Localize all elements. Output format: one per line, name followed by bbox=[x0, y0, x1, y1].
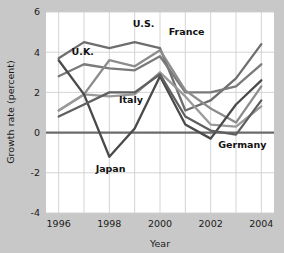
x-axis-title: Year bbox=[149, 238, 170, 249]
y-tick-label-0: 0 bbox=[34, 127, 40, 138]
series-label-germany: Germany bbox=[218, 139, 267, 150]
y-tick-label-6: 6 bbox=[34, 6, 40, 17]
chart-figure: -4-20246 19961998200020022004 U.S.France… bbox=[0, 0, 284, 253]
series-label-france: France bbox=[169, 26, 205, 37]
y-axis-title: Growth rate (percent) bbox=[5, 60, 16, 164]
x-tick-label-2004: 2004 bbox=[249, 218, 273, 229]
x-tick-label-1998: 1998 bbox=[97, 218, 121, 229]
growth-rate-line-chart: -4-20246 19961998200020022004 U.S.France… bbox=[0, 0, 284, 253]
x-tick-label-1996: 1996 bbox=[47, 218, 71, 229]
series-label-uk: U.K. bbox=[72, 46, 94, 57]
series-label-japan: Japan bbox=[95, 163, 126, 174]
y-tick-label--4: -4 bbox=[31, 207, 40, 218]
y-tick-label--2: -2 bbox=[31, 167, 40, 178]
series-label-italy: Italy bbox=[119, 94, 144, 105]
x-tick-label-2000: 2000 bbox=[148, 218, 172, 229]
y-tick-label-2: 2 bbox=[34, 87, 40, 98]
y-tick-label-4: 4 bbox=[34, 47, 40, 58]
series-label-us: U.S. bbox=[133, 18, 155, 29]
x-tick-label-2002: 2002 bbox=[199, 218, 223, 229]
